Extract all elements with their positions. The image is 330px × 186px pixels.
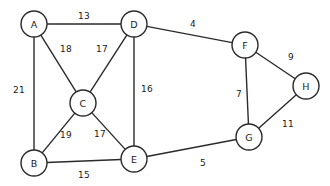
node-label-e: E [131, 154, 137, 165]
node-label-c: C [80, 98, 87, 109]
graph-node-e: E [121, 146, 147, 172]
node-label-g: G [245, 132, 253, 143]
edge-weight-f-h: 9 [288, 52, 294, 62]
graph-node-a: A [21, 11, 47, 37]
node-label-f: F [242, 40, 248, 51]
edge-weight-c-b: 19 [60, 130, 72, 140]
edge-weight-d-c: 17 [96, 44, 108, 54]
graph-edge-e-g [147, 139, 236, 156]
edge-weight-e-g: 5 [200, 158, 206, 168]
edge-weight-a-c: 18 [60, 44, 72, 54]
graph-node-d: D [121, 11, 147, 37]
graph-node-g: G [236, 124, 262, 150]
edge-weight-d-f: 4 [190, 19, 196, 29]
graph-node-c: C [70, 90, 96, 116]
node-label-d: D [130, 19, 138, 30]
edge-weight-g-h: 11 [282, 119, 294, 129]
edge-weight-b-e: 15 [78, 170, 90, 180]
graph-edge-b-e [47, 160, 121, 163]
node-label-a: A [31, 19, 38, 30]
edge-weight-a-d: 13 [78, 11, 90, 21]
node-layer: ADFHCGBE [21, 11, 319, 176]
graph-node-b: B [21, 150, 47, 176]
edge-weight-c-e: 17 [94, 129, 106, 139]
edge-weight-d-e: 16 [141, 84, 153, 94]
edge-weight-f-g: 7 [236, 89, 242, 99]
node-label-b: B [31, 158, 38, 169]
edge-weight-a-b: 21 [13, 85, 25, 95]
node-label-h: H [302, 81, 309, 92]
graph-diagram: ADFHCGBE 1318211716419171557911 [0, 0, 330, 186]
graph-node-h: H [293, 73, 319, 99]
graph-node-f: F [232, 32, 258, 58]
graph-canvas: ADFHCGBE 1318211716419171557911 [0, 0, 330, 186]
graph-edge-f-g [246, 58, 249, 124]
